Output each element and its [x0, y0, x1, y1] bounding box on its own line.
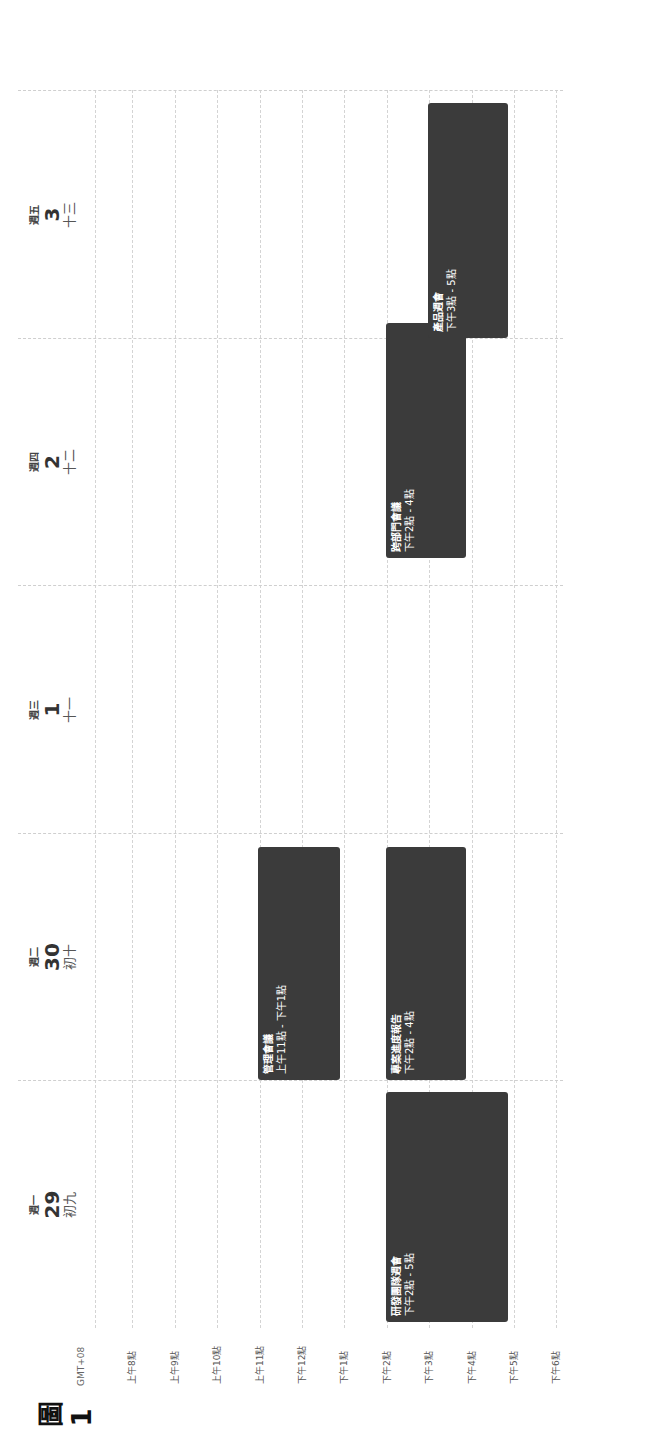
day-header: 週四 2 十二: [26, 339, 77, 585]
hour-label: 下午2點: [380, 1351, 393, 1384]
hour-label: 上午8點: [125, 1351, 138, 1384]
day-of-week: 週三: [26, 586, 41, 833]
day-number: 1: [41, 586, 63, 833]
hour-label: 下午3點: [422, 1351, 435, 1384]
hour-label: 下午4點: [465, 1351, 478, 1384]
lunar-date: 十二: [63, 339, 77, 585]
event-title: 專案進度報告: [390, 853, 403, 1074]
event-time: 下午3點 - 5點: [445, 109, 458, 332]
hour-label: 下午6點: [549, 1351, 562, 1384]
lunar-date: 初九: [63, 1081, 77, 1328]
event-time: 下午2點 - 5點: [403, 1098, 416, 1316]
hour-label: 下午12點: [295, 1346, 308, 1384]
lunar-date: 十三: [63, 91, 77, 338]
day-header: 週三 1 十一: [26, 586, 77, 833]
event-block[interactable]: 專案進度報告 下午2點 - 4點: [386, 847, 466, 1080]
event-time: 下午2點 - 4點: [403, 329, 416, 552]
days-grid: 週一 29 初九 週二 30 初十 週三 1 十一 週四 2 十二: [18, 90, 578, 1328]
day-column-thu[interactable]: 週四 2 十二: [18, 338, 563, 585]
day-number: 3: [41, 91, 63, 338]
hour-label: 上午10點: [210, 1346, 223, 1384]
timezone-label: GMT+08: [76, 1347, 86, 1386]
event-title: 管理會議: [262, 853, 275, 1074]
event-time: 上午11點 - 下午1點: [275, 853, 288, 1074]
hour-label: 上午11點: [253, 1346, 266, 1384]
time-gutter: GMT+08 上午8點 上午9點 上午10點 上午11點 下午12點 下午1點 …: [18, 1328, 578, 1390]
event-title: 產品週會: [432, 109, 445, 332]
event-block[interactable]: 產品週會 下午3點 - 5點: [428, 103, 508, 338]
day-number: 30: [41, 834, 63, 1080]
event-block[interactable]: 跨部門會議 下午2點 - 4點: [386, 323, 466, 558]
figure-caption: 圖1: [30, 1401, 97, 1427]
lunar-date: 初十: [63, 834, 77, 1080]
day-of-week: 週四: [26, 339, 41, 585]
hour-label: 下午1點: [337, 1351, 350, 1384]
event-block[interactable]: 管理會議 上午11點 - 下午1點: [258, 847, 340, 1080]
day-header: 週二 30 初十: [26, 834, 77, 1080]
hour-label: 上午9點: [168, 1351, 181, 1384]
day-number: 29: [41, 1081, 63, 1328]
lunar-date: 十一: [63, 586, 77, 833]
event-time: 下午2點 - 4點: [403, 853, 416, 1074]
hour-label: 下午5點: [507, 1351, 520, 1384]
event-title: 研發團隊週會: [390, 1098, 403, 1316]
week-calendar: GMT+08 上午8點 上午9點 上午10點 上午11點 下午12點 下午1點 …: [18, 90, 578, 1390]
day-column-wed[interactable]: 週三 1 十一: [18, 585, 563, 833]
day-header: 週一 29 初九: [26, 1081, 77, 1328]
day-of-week: 週二: [26, 834, 41, 1080]
day-of-week: 週五: [26, 91, 41, 338]
figure-label: 圖1: [44, 1352, 74, 1422]
event-block[interactable]: 研發團隊週會 下午2點 - 5點: [386, 1092, 508, 1322]
event-title: 跨部門會議: [390, 329, 403, 552]
day-of-week: 週一: [26, 1081, 41, 1328]
day-number: 2: [41, 339, 63, 585]
day-header: 週五 3 十三: [26, 91, 77, 338]
